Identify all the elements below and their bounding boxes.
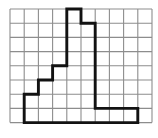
figure-root (0, 0, 158, 138)
grid-polygon-canvas (0, 0, 158, 138)
grid-lines-group (10, 9, 152, 123)
